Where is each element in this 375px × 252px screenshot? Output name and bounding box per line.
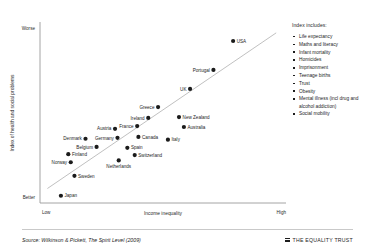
hamburger-bars-icon xyxy=(285,238,290,243)
data-point[interactable]: Canada xyxy=(136,135,158,140)
data-point[interactable]: Australia xyxy=(182,125,206,130)
data-point[interactable]: UK xyxy=(180,87,192,92)
data-point-label: France xyxy=(119,124,134,129)
data-point[interactable]: Portugal xyxy=(193,68,216,73)
data-point[interactable]: Spain xyxy=(125,145,143,150)
data-point[interactable]: Japan xyxy=(59,193,78,198)
legend-title: Index includes: xyxy=(292,22,374,28)
legend-item-label: Mental illness (incl drug and alcohol ad… xyxy=(299,96,358,108)
data-point-marker xyxy=(83,137,87,141)
data-point-marker xyxy=(66,152,70,156)
bullet-icon xyxy=(293,67,295,69)
data-point-label: Italy xyxy=(172,137,181,142)
x-axis-title: Income inequality xyxy=(144,211,183,216)
data-point-label: Australia xyxy=(188,125,206,130)
legend-item: Obesity xyxy=(292,88,374,95)
legend-item: Life expectancy xyxy=(292,33,374,40)
legend-item: Mental illness (incl drug and alcohol ad… xyxy=(292,95,374,109)
bullet-icon xyxy=(293,98,295,100)
x-tick-high: High xyxy=(277,210,287,215)
legend-item: Homicides xyxy=(292,56,374,63)
data-point[interactable]: USA xyxy=(231,39,247,44)
bullet-icon xyxy=(293,75,295,77)
footer-divider xyxy=(22,229,353,230)
legend-item: Maths and literacy xyxy=(292,41,374,48)
data-point-label: USA xyxy=(237,39,247,44)
data-point-label: Austria xyxy=(97,126,112,131)
data-point-marker xyxy=(146,116,150,120)
y-tick-worse: Worse xyxy=(22,26,36,31)
data-point-marker xyxy=(135,124,139,128)
legend-item-label: Obesity xyxy=(299,89,315,94)
data-point[interactable]: Denmark xyxy=(63,136,87,141)
data-point[interactable]: Austria xyxy=(97,126,117,131)
data-point-label: Ireland xyxy=(131,116,145,121)
bullet-icon xyxy=(293,83,295,85)
data-point-marker xyxy=(94,145,98,149)
data-point-label: Denmark xyxy=(63,136,82,141)
bullet-icon xyxy=(293,90,295,92)
data-point-marker xyxy=(59,194,63,198)
plot-canvas: USAPortugalUKGreeceNew ZealandIrelandAus… xyxy=(0,0,300,225)
data-point[interactable]: Sweden xyxy=(72,174,95,179)
data-point-marker xyxy=(72,174,76,178)
data-point-label: Switzerland xyxy=(138,153,162,158)
data-point[interactable]: Germany xyxy=(95,136,120,141)
data-point-marker xyxy=(136,135,140,139)
axis-frame xyxy=(40,22,286,203)
y-axis-title: Index of health and social problems xyxy=(10,74,15,151)
source-citation: Source: Wilkinson & Pickett, The Spirit … xyxy=(22,237,141,243)
data-point-marker xyxy=(113,127,117,131)
legend-item-list: Life expectancyMaths and literacyInfant … xyxy=(292,33,374,118)
data-point[interactable]: Belgium xyxy=(76,145,98,150)
data-point[interactable]: Netherlands xyxy=(106,158,131,168)
legend-item-label: Trust xyxy=(299,81,310,86)
data-point[interactable]: Italy xyxy=(166,137,181,142)
data-point[interactable]: Finland xyxy=(66,152,87,157)
y-tick-better: Better xyxy=(23,195,36,200)
data-point-marker xyxy=(125,146,129,150)
data-point-marker xyxy=(182,125,186,129)
data-point-label: New Zealand xyxy=(183,115,211,120)
scatter-plot: USAPortugalUKGreeceNew ZealandIrelandAus… xyxy=(0,0,300,225)
data-point-marker xyxy=(166,138,170,142)
legend-item: Trust xyxy=(292,80,374,87)
legend-item-label: Life expectancy xyxy=(299,34,332,39)
data-point[interactable]: Greece xyxy=(139,105,160,110)
data-point-label: Netherlands xyxy=(106,164,131,169)
bullet-icon xyxy=(293,36,295,38)
legend-item-label: Imprisonment xyxy=(299,65,328,70)
legend-item: Infant mortality xyxy=(292,49,374,56)
legend-item-label: Homicides xyxy=(299,57,321,62)
data-point[interactable]: New Zealand xyxy=(177,115,210,120)
data-point-label: Greece xyxy=(139,105,155,110)
data-point[interactable]: Ireland xyxy=(131,116,151,121)
data-point-label: Canada xyxy=(142,135,159,140)
equality-trust-logo: THE EQUALITY TRUST xyxy=(285,237,353,243)
bullet-icon xyxy=(293,44,295,46)
data-point-marker xyxy=(156,105,160,109)
data-point-marker xyxy=(211,68,215,72)
data-point-label: Sweden xyxy=(78,174,95,179)
legend-item: Imprisonment xyxy=(292,64,374,71)
legend-item-label: Maths and literacy xyxy=(299,42,338,47)
data-point-label: Spain xyxy=(131,145,143,150)
data-point[interactable]: Switzerland xyxy=(133,153,163,158)
data-point-marker xyxy=(69,160,73,164)
trend-line xyxy=(47,33,276,189)
legend-item: Social mobility xyxy=(292,110,374,117)
data-point-label: UK xyxy=(180,87,187,92)
data-point-label: Belgium xyxy=(76,145,93,150)
brand-name: THE EQUALITY TRUST xyxy=(292,237,353,243)
data-point-marker xyxy=(188,87,192,91)
data-point-label: Japan xyxy=(65,193,78,198)
legend-item-label: Teenage births xyxy=(299,73,330,78)
data-point-marker xyxy=(177,115,181,119)
x-tick-low: Low xyxy=(42,210,51,215)
data-point-marker xyxy=(115,136,119,140)
data-point[interactable]: Norway xyxy=(52,160,73,165)
data-point-label: Finland xyxy=(72,152,88,157)
chart-figure: USAPortugalUKGreeceNew ZealandIrelandAus… xyxy=(0,0,375,252)
data-points-layer: USAPortugalUKGreeceNew ZealandIrelandAus… xyxy=(52,39,248,199)
data-point-label: Portugal xyxy=(193,68,210,73)
